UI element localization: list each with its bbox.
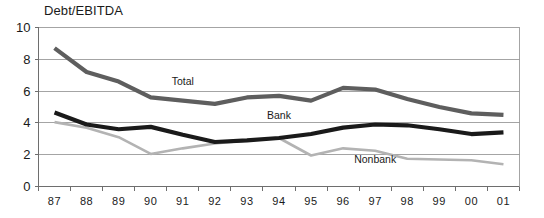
y-tick-label: 10 [16, 20, 30, 35]
x-tick-label: 97 [368, 195, 381, 207]
x-tick-label: 92 [208, 195, 221, 207]
y-tick-label: 8 [23, 52, 30, 67]
y-tick-label: 6 [23, 84, 30, 99]
x-tick-label: 87 [48, 195, 61, 207]
x-tick-label: 96 [336, 195, 349, 207]
x-tick-label: 94 [272, 195, 285, 207]
x-tick-label: 90 [144, 195, 157, 207]
x-tick-label: 95 [304, 195, 317, 207]
series-annotation-nonbank: Nonbank [354, 153, 397, 165]
series-line-total [55, 48, 504, 115]
x-tick-label: 98 [401, 195, 414, 207]
y-tick-label: 2 [23, 147, 30, 162]
series-lines-group [55, 48, 504, 164]
x-tick-label: 93 [240, 195, 253, 207]
chart-container: Debt/EBITDA 0246810 87888990919293949596… [0, 0, 544, 218]
x-tick-label: 99 [433, 195, 446, 207]
x-tick-label: 89 [112, 195, 125, 207]
x-axis-ticks: 878889909192939495969798990001 [39, 187, 520, 207]
series-annotation-bank: Bank [267, 109, 292, 121]
x-tick-label: 88 [80, 195, 93, 207]
y-tick-label: 4 [23, 115, 30, 130]
x-tick-label: 00 [465, 195, 478, 207]
y-tick-label: 0 [23, 179, 30, 194]
x-tick-label: 91 [176, 195, 189, 207]
series-annotation-total: Total [172, 75, 194, 87]
y-axis-ticks: 0246810 [16, 20, 38, 194]
line-chart-plot: 0246810 878889909192939495969798990001 T… [0, 0, 544, 218]
x-tick-label: 01 [497, 195, 510, 207]
